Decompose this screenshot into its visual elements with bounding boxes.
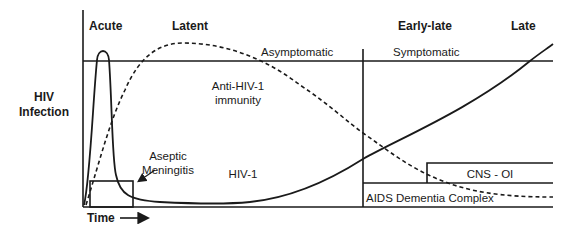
- y-axis-label-line1: HIV: [34, 90, 54, 104]
- phase-asymptomatic: Asymptomatic: [261, 46, 333, 58]
- aseptic-label-line1: Aseptic: [149, 150, 187, 162]
- hiv-1-label: HIV-1: [229, 168, 258, 180]
- stage-acute: Acute: [89, 19, 123, 33]
- stage-early-late: Early-late: [398, 19, 452, 33]
- immunity-label-line1: Anti-HIV-1: [212, 80, 264, 92]
- anti-hiv-immunity-curve: [86, 43, 553, 205]
- adc-label: AIDS Dementia Complex: [366, 192, 494, 204]
- y-axis-label-line2: Infection: [19, 105, 69, 119]
- stage-latent: Latent: [172, 19, 208, 33]
- phase-symptomatic: Symptomatic: [393, 46, 460, 58]
- aseptic-label-line2: Meningitis: [142, 164, 194, 176]
- stage-late: Late: [511, 19, 536, 33]
- cns-oi-label: CNS - OI: [467, 168, 514, 180]
- immunity-label-line2: immunity: [215, 94, 261, 106]
- hiv-progression-diagram: HIV Infection Time Acute Latent Early-la…: [0, 0, 574, 237]
- x-axis-label: Time: [87, 211, 115, 225]
